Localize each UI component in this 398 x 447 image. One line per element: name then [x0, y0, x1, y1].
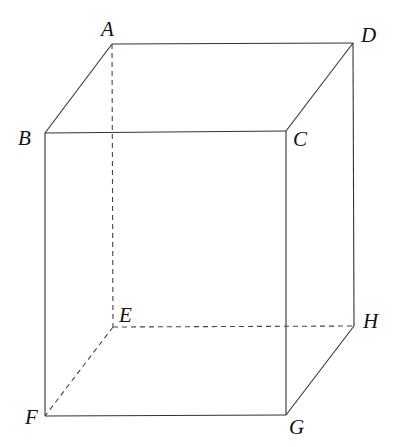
edge-EF-hidden [45, 327, 113, 416]
vertex-label-h: H [362, 309, 380, 333]
vertex-label-f: F [24, 405, 38, 429]
vertex-label-a: A [99, 17, 114, 41]
edge-GH [286, 326, 354, 415]
vertex-label-c: C [293, 127, 308, 151]
edge-DH [353, 43, 354, 326]
edge-EH-hidden [113, 326, 354, 327]
vertex-label-e: E [118, 303, 132, 327]
cube-diagram: A B C D E F G H [0, 0, 398, 447]
edge-AE-hidden [112, 44, 113, 327]
edge-BC [45, 131, 286, 133]
edge-AD [112, 43, 353, 44]
edge-FG [45, 415, 286, 416]
vertex-label-b: B [18, 126, 31, 150]
vertex-label-d: D [360, 23, 376, 47]
vertex-label-g: G [289, 415, 304, 439]
edge-AB [45, 44, 112, 133]
edge-CD [286, 43, 353, 131]
